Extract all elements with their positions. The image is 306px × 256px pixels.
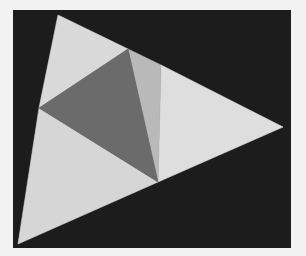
tetrahedron-net-figure [0, 0, 306, 256]
